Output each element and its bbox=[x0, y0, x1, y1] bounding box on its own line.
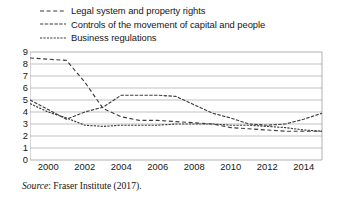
legend-item-capital-controls: Controls of the movement of capital and … bbox=[40, 18, 330, 32]
x-tick-label: 2010 bbox=[220, 162, 241, 172]
chart-canvas bbox=[30, 48, 330, 164]
x-tick-label: 2002 bbox=[74, 162, 95, 172]
legend-label-business-regulations: Business regulations bbox=[71, 32, 157, 43]
source-note: Source: Fraser Institute (2017). bbox=[22, 180, 142, 191]
x-tick-label: 2004 bbox=[111, 162, 132, 172]
source-label: Source bbox=[22, 180, 48, 191]
legend-item-business-regulations: Business regulations bbox=[40, 31, 330, 45]
legend-label-legal-system: Legal system and property rights bbox=[71, 5, 205, 16]
chart-figure: Legal system and property rights Control… bbox=[0, 0, 343, 204]
series-line-2 bbox=[30, 104, 322, 132]
y-tick-label: 7 bbox=[23, 71, 28, 80]
y-tick-label: 6 bbox=[23, 83, 28, 92]
y-tick-label: 5 bbox=[23, 95, 28, 104]
y-tick-label: 4 bbox=[23, 107, 28, 116]
y-axis-tick-labels: 9876543210 bbox=[14, 48, 28, 164]
plot-area: 9876543210 bbox=[0, 48, 343, 164]
x-tick-label: 2012 bbox=[257, 162, 278, 172]
legend-item-legal-system: Legal system and property rights bbox=[40, 4, 330, 18]
x-axis-tick-labels: 20002002200420062008201020122014 bbox=[0, 162, 343, 176]
legend-swatch-medium-dash-icon bbox=[40, 19, 66, 29]
y-tick-label: 3 bbox=[23, 119, 28, 128]
series-line-0 bbox=[30, 58, 322, 131]
source-text: : Fraser Institute (2017). bbox=[48, 180, 141, 191]
x-tick-label: 2006 bbox=[147, 162, 168, 172]
x-tick-label: 2008 bbox=[184, 162, 205, 172]
y-tick-label: 9 bbox=[23, 47, 28, 56]
legend-swatch-fine-dash-icon bbox=[40, 33, 66, 43]
legend-label-capital-controls: Controls of the movement of capital and … bbox=[71, 19, 265, 30]
legend-swatch-long-dash-icon bbox=[40, 6, 66, 16]
chart-legend: Legal system and property rights Control… bbox=[40, 4, 330, 45]
y-tick-label: 2 bbox=[23, 131, 28, 140]
x-tick-label: 2000 bbox=[38, 162, 59, 172]
y-tick-label: 1 bbox=[23, 143, 28, 152]
y-tick-label: 8 bbox=[23, 59, 28, 68]
x-tick-label: 2014 bbox=[293, 162, 314, 172]
